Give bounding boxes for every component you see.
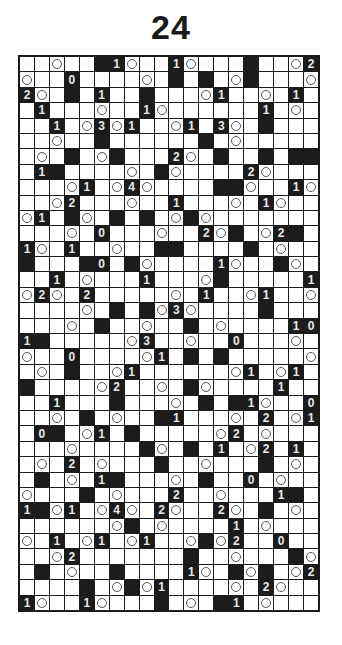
white-cell[interactable]: [20, 165, 34, 179]
numbered-black-cell[interactable]: 1: [35, 103, 49, 117]
white-cell[interactable]: [20, 565, 34, 579]
white-cell[interactable]: [155, 211, 169, 225]
white-cell[interactable]: [50, 303, 64, 317]
white-cell[interactable]: [80, 165, 94, 179]
white-cell[interactable]: [304, 503, 318, 517]
white-cell[interactable]: [155, 257, 169, 271]
numbered-black-cell[interactable]: 1: [304, 411, 318, 425]
white-cell[interactable]: [199, 488, 213, 502]
numbered-black-cell[interactable]: 1: [184, 119, 198, 133]
circle-cell[interactable]: [95, 503, 109, 517]
white-cell[interactable]: [259, 242, 273, 256]
numbered-black-cell[interactable]: 1: [274, 380, 288, 394]
circle-cell[interactable]: [95, 457, 109, 471]
white-cell[interactable]: [20, 396, 34, 410]
white-cell[interactable]: [244, 196, 258, 210]
white-cell[interactable]: [65, 134, 79, 148]
white-cell[interactable]: [169, 134, 183, 148]
black-cell[interactable]: [214, 272, 228, 286]
white-cell[interactable]: [259, 180, 273, 194]
circle-cell[interactable]: [110, 488, 124, 502]
white-cell[interactable]: [244, 596, 258, 610]
numbered-black-cell[interactable]: 2: [169, 488, 183, 502]
white-cell[interactable]: [80, 349, 94, 363]
circle-cell[interactable]: [169, 473, 183, 487]
white-cell[interactable]: [169, 319, 183, 333]
numbered-black-cell[interactable]: 2: [259, 411, 273, 425]
black-cell[interactable]: [80, 411, 94, 425]
white-cell[interactable]: [244, 119, 258, 133]
white-cell[interactable]: [110, 457, 124, 471]
white-cell[interactable]: [80, 442, 94, 456]
numbered-black-cell[interactable]: 1: [184, 565, 198, 579]
white-cell[interactable]: [110, 334, 124, 348]
white-cell[interactable]: [169, 534, 183, 548]
circle-cell[interactable]: [20, 72, 34, 86]
numbered-black-cell[interactable]: 1: [244, 396, 258, 410]
white-cell[interactable]: [110, 165, 124, 179]
circle-cell[interactable]: [50, 57, 64, 71]
white-cell[interactable]: [65, 334, 79, 348]
white-cell[interactable]: [289, 272, 303, 286]
white-cell[interactable]: [274, 549, 288, 563]
white-cell[interactable]: [125, 319, 139, 333]
circle-cell[interactable]: [65, 180, 79, 194]
numbered-black-cell[interactable]: 1: [289, 180, 303, 194]
numbered-black-cell[interactable]: 2: [169, 149, 183, 163]
numbered-black-cell[interactable]: 1: [35, 165, 49, 179]
white-cell[interactable]: [140, 596, 154, 610]
circle-cell[interactable]: [80, 272, 94, 286]
black-cell[interactable]: [155, 596, 169, 610]
white-cell[interactable]: [259, 488, 273, 502]
white-cell[interactable]: [155, 288, 169, 302]
white-cell[interactable]: [20, 226, 34, 240]
numbered-black-cell[interactable]: 3: [169, 303, 183, 317]
white-cell[interactable]: [95, 196, 109, 210]
circle-cell[interactable]: [229, 72, 243, 86]
white-cell[interactable]: [274, 57, 288, 71]
circle-cell[interactable]: [110, 519, 124, 533]
white-cell[interactable]: [110, 442, 124, 456]
white-cell[interactable]: [289, 473, 303, 487]
black-cell[interactable]: [65, 365, 79, 379]
white-cell[interactable]: [140, 503, 154, 517]
white-cell[interactable]: [274, 88, 288, 102]
circle-cell[interactable]: [184, 534, 198, 548]
white-cell[interactable]: [244, 303, 258, 317]
white-cell[interactable]: [304, 226, 318, 240]
circle-cell[interactable]: [199, 211, 213, 225]
numbered-black-cell[interactable]: 1: [289, 88, 303, 102]
numbered-black-cell[interactable]: 1: [50, 272, 64, 286]
white-cell[interactable]: [125, 211, 139, 225]
white-cell[interactable]: [184, 134, 198, 148]
numbered-black-cell[interactable]: 1: [20, 334, 34, 348]
white-cell[interactable]: [110, 534, 124, 548]
white-cell[interactable]: [214, 103, 228, 117]
white-cell[interactable]: [125, 473, 139, 487]
circle-cell[interactable]: [110, 119, 124, 133]
white-cell[interactable]: [80, 72, 94, 86]
white-cell[interactable]: [155, 272, 169, 286]
circle-cell[interactable]: [140, 580, 154, 594]
white-cell[interactable]: [155, 196, 169, 210]
white-cell[interactable]: [50, 380, 64, 394]
white-cell[interactable]: [259, 534, 273, 548]
white-cell[interactable]: [259, 57, 273, 71]
white-cell[interactable]: [199, 411, 213, 425]
numbered-black-cell[interactable]: 1: [95, 426, 109, 440]
numbered-black-cell[interactable]: 2: [229, 534, 243, 548]
white-cell[interactable]: [155, 365, 169, 379]
white-cell[interactable]: [125, 457, 139, 471]
white-cell[interactable]: [199, 196, 213, 210]
white-cell[interactable]: [229, 88, 243, 102]
white-cell[interactable]: [50, 88, 64, 102]
numbered-black-cell[interactable]: 2: [259, 580, 273, 594]
white-cell[interactable]: [20, 149, 34, 163]
circle-cell[interactable]: [259, 596, 273, 610]
black-cell[interactable]: [229, 565, 243, 579]
white-cell[interactable]: [169, 426, 183, 440]
white-cell[interactable]: [35, 303, 49, 317]
white-cell[interactable]: [244, 488, 258, 502]
white-cell[interactable]: [274, 319, 288, 333]
white-cell[interactable]: [140, 365, 154, 379]
